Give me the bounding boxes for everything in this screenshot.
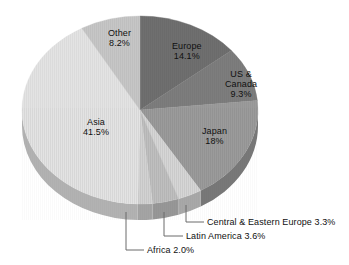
pie-chart-figure: Other8.2%Europe14.1%US &Canada9.3%Japan1…	[0, 0, 349, 265]
pie-texture-overlay	[22, 16, 258, 220]
texture-band	[22, 108, 258, 220]
callout-label: Africa 2.0%	[147, 246, 194, 255]
callout-label: Central & Eastern Europe 3.3%	[207, 218, 335, 227]
callout-label: Latin America 3.6%	[186, 232, 265, 241]
